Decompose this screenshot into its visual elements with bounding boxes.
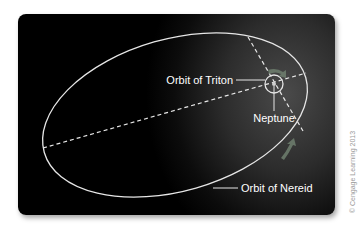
triton-orbit-label: Orbit of Triton — [166, 74, 233, 86]
nereid-orbit-label: Orbit of Nereid — [241, 182, 313, 194]
nereid-motion-arrow-icon — [281, 138, 296, 160]
neptune-label: Neptune — [253, 112, 295, 124]
orbit-diagram: Orbit of Triton Neptune Orbit of Nereid — [0, 0, 364, 228]
copyright-notice: © Cengage Learning 2013 — [349, 131, 356, 213]
neptune-dot — [272, 82, 276, 86]
